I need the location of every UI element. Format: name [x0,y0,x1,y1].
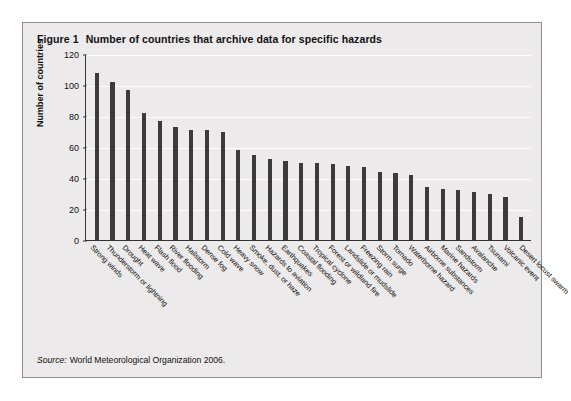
bar-slot [293,54,309,240]
bar-slot [482,54,498,240]
bar [362,167,366,240]
figure-title-text: Number of countries that archive data fo… [86,33,382,45]
bar [393,173,397,240]
bar-slot [230,54,246,240]
bar [158,121,162,240]
y-tick-label: 60 [69,143,79,153]
bar-slot [309,54,325,240]
bar-slot [435,54,451,240]
bar-slot [89,54,105,240]
y-tick-label: 100 [64,81,79,91]
bar-slot [513,54,529,240]
bar-slot [215,54,231,240]
bar [503,197,507,240]
bar [252,155,256,240]
bar [315,163,319,241]
y-tick-label: 40 [69,174,79,184]
bar [173,127,177,240]
bar-slot [120,54,136,240]
bar [488,194,492,241]
bar [95,73,99,240]
bar-slot [466,54,482,240]
bar-slot [152,54,168,240]
bar [110,82,114,240]
bar [205,130,209,240]
y-axis-label: Number of countries [35,99,45,113]
bar-slot [136,54,152,240]
bar [331,164,335,240]
bar-slot [498,54,514,240]
y-tick-label: 0 [74,236,79,246]
bar-slot [403,54,419,240]
y-tick-label: 80 [69,112,79,122]
bar [126,90,130,240]
source-note: Source:World Meteorological Organization… [37,355,225,365]
bar-slot [199,54,215,240]
bar [299,163,303,241]
bar-slot [372,54,388,240]
bar-slot [356,54,372,240]
bar [221,132,225,241]
bar [346,166,350,240]
bar [189,130,193,240]
bar [142,113,146,240]
chart-axes [85,55,531,241]
bar-slot [388,54,404,240]
source-text: World Meteorological Organization 2006. [70,355,226,365]
bar-slot [105,54,121,240]
bar-slot [325,54,341,240]
bar [378,172,382,240]
bar-slot [246,54,262,240]
bar-slot [262,54,278,240]
figure-panel: Figure 1Number of countries that archive… [22,22,542,378]
bar [268,159,272,240]
bar-slot [341,54,357,240]
bar [441,189,445,240]
y-tick-label: 20 [69,205,79,215]
bar [519,217,523,240]
bar [472,192,476,240]
bar-series [86,54,531,240]
bar-slot [419,54,435,240]
bar [283,161,287,240]
bar-slot [278,54,294,240]
bar-slot [168,54,184,240]
bar [425,187,429,240]
bar-slot [451,54,467,240]
source-label: Source: [37,355,67,365]
bar [236,150,240,240]
x-axis-labels: Strong windsThunderstorm or lightningDro… [85,243,531,393]
y-tick-label: 120 [64,50,79,60]
bar [456,190,460,240]
bar [409,175,413,240]
figure-title: Figure 1Number of countries that archive… [37,33,382,45]
bar-slot [183,54,199,240]
y-axis-ticks: 020406080100120 [53,55,83,241]
chart-plot-area: Number of countries 020406080100120 Stro… [37,55,531,285]
